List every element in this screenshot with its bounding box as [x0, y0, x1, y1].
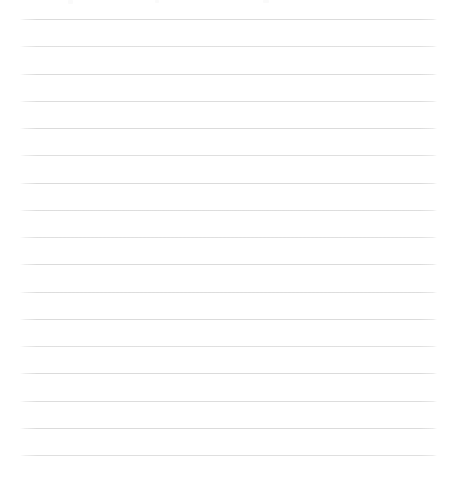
ruled-line — [20, 373, 437, 374]
ruled-line — [20, 19, 437, 20]
ruled-line — [20, 401, 437, 402]
ruled-line — [20, 346, 437, 347]
lined-paper-page — [0, 0, 454, 477]
ruled-line — [20, 74, 437, 75]
ruled-line — [20, 155, 437, 156]
ruled-lines-layer — [0, 0, 454, 477]
ruled-line — [20, 101, 437, 102]
ruled-line — [20, 128, 437, 129]
ruled-line — [20, 46, 437, 47]
ruled-line — [20, 428, 437, 429]
ruled-line — [20, 264, 437, 265]
ruled-line — [20, 237, 437, 238]
ruled-line — [20, 292, 437, 293]
ruled-line — [20, 319, 437, 320]
ruled-line — [20, 210, 437, 211]
ruled-line — [20, 183, 437, 184]
ruled-line — [20, 455, 437, 456]
